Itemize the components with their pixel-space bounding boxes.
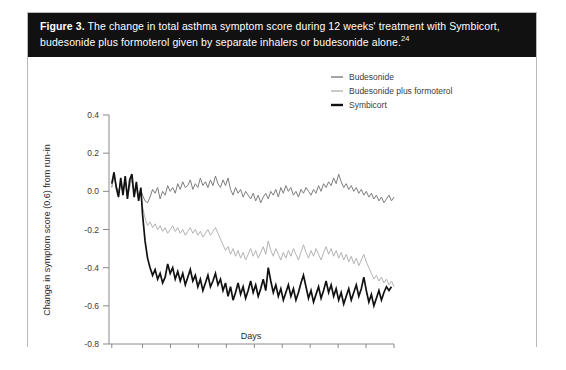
y-tick-label: 0.2 <box>87 148 99 158</box>
y-tick-label: -0.6 <box>84 301 99 311</box>
figure-card: Figure 3. The change in total asthma sym… <box>27 12 537 347</box>
y-tick-label: -0.2 <box>84 224 99 234</box>
series-line-budesonide <box>112 174 394 203</box>
figure-number: Figure 3. <box>40 20 85 32</box>
series-group <box>112 172 394 306</box>
figure-caption-line-2: budesonide plus formoterol given by sepa… <box>40 36 401 48</box>
series-line-symbicort <box>112 172 392 306</box>
legend-label-budesonide-plus-formoterol: Budesonide plus formoterol <box>349 86 453 96</box>
figure-caption-line-1: The change in total asthma symptom score… <box>85 20 500 32</box>
chart-plot-area: 0.40.20.0-0.2-0.4-0.6-0.8 Run-in01020304… <box>28 57 536 348</box>
y-axis-ticks: 0.40.20.0-0.2-0.4-0.6-0.8 <box>84 110 109 348</box>
axes-group <box>109 115 394 344</box>
x-axis-title: Days <box>241 331 262 341</box>
y-tick-label: 0.4 <box>87 110 99 120</box>
y-axis-title: Change in symptom score (0.6) from run-i… <box>42 144 52 316</box>
legend-label-symbicort: Symbicort <box>349 100 387 110</box>
reference-superscript: 24 <box>401 34 410 43</box>
line-chart: 0.40.20.0-0.2-0.4-0.6-0.8 Run-in01020304… <box>28 57 536 348</box>
figure-caption-header: Figure 3. The change in total asthma sym… <box>28 13 536 57</box>
x-axis-ticks: Run-in0102030405060708090 <box>99 344 399 348</box>
y-tick-label: -0.4 <box>84 263 99 273</box>
y-tick-label: 0.0 <box>87 186 99 196</box>
y-tick-label: -0.8 <box>84 339 99 348</box>
chart-legend: BudesonideBudesonide plus formoterolSymb… <box>331 72 453 110</box>
legend-label-budesonide: Budesonide <box>349 72 394 82</box>
